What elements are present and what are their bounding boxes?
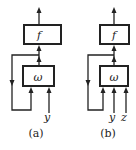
arrow-up-icon <box>37 56 42 62</box>
automaton-diagrams: f ω y (a) f ω <box>0 0 136 150</box>
arrow-up-icon <box>112 56 117 62</box>
diagram-b: f ω y z (b) <box>86 7 130 140</box>
arrow-up-icon <box>37 7 42 13</box>
arrow-up-icon <box>112 87 117 93</box>
arrow-up-icon <box>47 87 52 93</box>
arrow-up-icon <box>112 45 117 51</box>
omega-label-b: ω <box>110 71 119 84</box>
arrow-down-icon <box>86 80 91 86</box>
arrow-down-icon <box>10 80 15 86</box>
input-y-label-a: y <box>43 111 51 124</box>
arrow-up-icon <box>29 87 34 93</box>
input-y-label-b: y <box>108 111 116 124</box>
diagram-a: f ω y (a) <box>10 7 62 140</box>
input-z-label-b: z <box>120 111 127 124</box>
caption-b: (b) <box>100 127 116 140</box>
omega-label-a: ω <box>34 71 43 84</box>
arrow-up-icon <box>112 7 117 13</box>
f-block-a <box>24 25 61 44</box>
arrow-up-icon <box>101 87 106 93</box>
caption-a: (a) <box>28 127 43 140</box>
arrow-up-icon <box>124 87 129 93</box>
arrow-up-icon <box>37 45 42 51</box>
